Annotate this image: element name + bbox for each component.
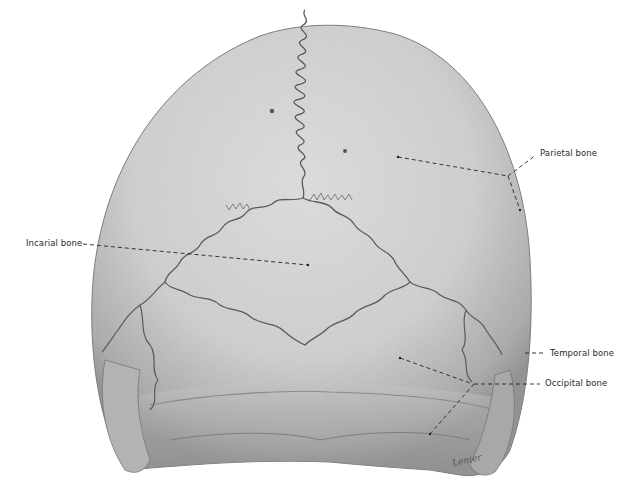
label-incarial-bone: Incarial bone [26, 238, 82, 248]
skull-drawing [0, 0, 640, 503]
label-temporal-bone: Temporal bone [550, 348, 614, 358]
label-occipital-bone: Occipital bone [545, 378, 607, 388]
skull-illustration: Parietal bone Incarial bone Temporal bon… [0, 0, 640, 503]
label-parietal-bone: Parietal bone [540, 148, 597, 158]
occipital-base [134, 382, 502, 472]
